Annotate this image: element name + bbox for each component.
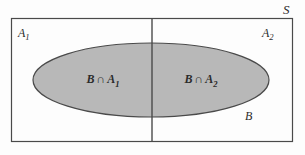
partition-a1-subscript: 1: [25, 32, 29, 42]
region-b-intersect-a2-label: B∩A2: [184, 73, 217, 88]
region-b-intersect-a1-label: B∩A1: [86, 73, 119, 88]
event-b-ellipse: [33, 43, 269, 117]
region-right-b: B: [184, 72, 192, 86]
sample-space-label: S: [283, 3, 290, 16]
partition-a2-label: A2: [262, 27, 274, 42]
event-b-label: B: [245, 110, 252, 122]
region-left-subscript: 1: [115, 79, 119, 89]
region-right-subscript: 2: [213, 79, 217, 89]
partition-a2-subscript: 2: [269, 32, 273, 42]
intersection-icon-right: ∩: [193, 72, 206, 86]
venn-diagram-figure: S A1 A2 B∩A1 B∩A2 B: [0, 0, 305, 155]
region-right-a: A: [205, 72, 213, 86]
intersection-icon-left: ∩: [95, 72, 108, 86]
venn-diagram-canvas: [0, 0, 305, 155]
partition-a1-label: A1: [18, 27, 30, 42]
region-left-b: B: [86, 72, 94, 86]
region-left-a: A: [107, 72, 115, 86]
